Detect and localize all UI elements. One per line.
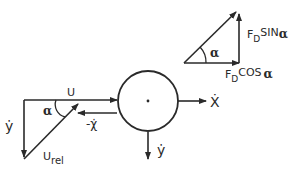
velocity-angle-arc bbox=[55, 100, 65, 117]
cylinder-body: Ẋ ẏ bbox=[118, 71, 220, 159]
u-label: U bbox=[67, 86, 75, 99]
velocity-triangle: U ẏ α Urel -χ̇ bbox=[5, 86, 117, 166]
neg-x-dot-label: -χ̇ bbox=[86, 117, 97, 131]
cylinder-velocity-force-diagram: α FDSINα FDCOSα Ẋ ẏ U ẏ α Urel -χ̇ bbox=[0, 0, 298, 175]
y-dot-relative-label: ẏ bbox=[5, 118, 13, 134]
x-dot-label: Ẋ bbox=[210, 93, 220, 110]
velocity-angle-label: α bbox=[43, 104, 52, 118]
y-dot-label: ẏ bbox=[157, 142, 165, 158]
force-sin-label: FDSINα bbox=[247, 26, 288, 44]
force-angle-arc bbox=[200, 47, 206, 63]
cylinder-center-dot bbox=[147, 100, 150, 103]
force-cos-label: FDCOSα bbox=[225, 66, 273, 84]
force-angle-label: α bbox=[210, 46, 219, 60]
u-rel-label: Urel bbox=[43, 150, 64, 166]
force-triangle: α FDSINα FDCOSα bbox=[184, 12, 288, 84]
